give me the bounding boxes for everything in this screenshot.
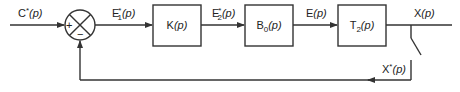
signal-e: E(p)	[293, 7, 337, 25]
output-signal: X(p)	[386, 7, 452, 25]
signal-e1: E*1(p)	[95, 6, 152, 25]
x-label: X(p)	[414, 7, 435, 19]
block-t2: T2(p)	[338, 5, 386, 46]
input-signal: C*(p)	[10, 6, 64, 25]
block-k-label: K(p)	[167, 19, 188, 31]
feedback-path: X*(p)	[80, 41, 411, 80]
block-k: K(p)	[153, 5, 201, 46]
sampler-switch	[411, 25, 421, 80]
plus-sign: +	[66, 19, 72, 31]
block-diagram: C*(p) + − E*1(p) K(p) E*2(p) B0(p) E(p) …	[0, 0, 460, 92]
minus-sign: −	[77, 28, 83, 40]
e-label: E(p)	[306, 7, 327, 19]
input-label: C*(p)	[18, 6, 43, 19]
summing-junction: + −	[65, 10, 95, 40]
e2-label: E*2(p)	[212, 6, 236, 22]
signal-e2: E*2(p)	[201, 6, 244, 25]
block-b0: B0(p)	[245, 5, 293, 46]
xs-label: X*(p)	[382, 62, 406, 75]
e1-label: E*1(p)	[112, 6, 136, 22]
